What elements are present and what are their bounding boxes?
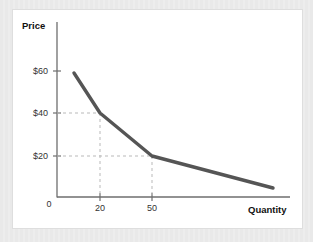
y-tick-label-60: $60 (33, 66, 48, 76)
y-axis-title: Price (22, 20, 45, 31)
x-tick-label-20: 20 (95, 203, 105, 213)
origin-label: 0 (46, 199, 51, 209)
demand-curve-chart: Price Quantity $60 $40 $20 0 20 50 (0, 0, 313, 242)
demand-curve-line (74, 73, 273, 188)
x-axis-title: Quantity (248, 204, 287, 215)
y-tick-label-40: $40 (33, 108, 48, 118)
x-tick-label-50: 50 (147, 203, 157, 213)
y-tick-label-20: $20 (33, 151, 48, 161)
screenshot-stage: Price Quantity $60 $40 $20 0 20 50 (0, 0, 313, 242)
